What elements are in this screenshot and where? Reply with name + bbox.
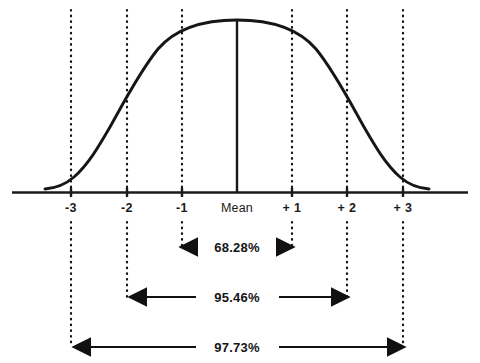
percent-label-2-sigma: 95.46% <box>214 290 260 305</box>
normal-distribution-diagram: -3 -2 -1 Mean + 1 + 2 + 3 68.28% <box>0 0 480 363</box>
interval-annotation-1-sigma: 68.28% <box>180 240 294 255</box>
axis-label-plus-2: + 2 <box>338 201 357 215</box>
axis-label-minus-1: -1 <box>176 201 188 215</box>
axis-label-mean: Mean <box>221 201 253 215</box>
axis-label-plus-3: + 3 <box>394 201 413 215</box>
axis-label-minus-2: -2 <box>121 201 133 215</box>
axis-label-minus-3: -3 <box>65 201 77 215</box>
interval-annotation-2-sigma: 95.46% <box>129 290 349 305</box>
axis-label-plus-1: + 1 <box>283 201 302 215</box>
interval-annotation-3-sigma: 97.73% <box>73 340 405 355</box>
normal-distribution-chart: -3 -2 -1 Mean + 1 + 2 + 3 68.28% <box>0 0 480 363</box>
percent-label-1-sigma: 68.28% <box>214 240 260 255</box>
percent-label-3-sigma: 97.73% <box>214 340 260 355</box>
axis-label-group: -3 -2 -1 Mean + 1 + 2 + 3 <box>65 201 412 215</box>
